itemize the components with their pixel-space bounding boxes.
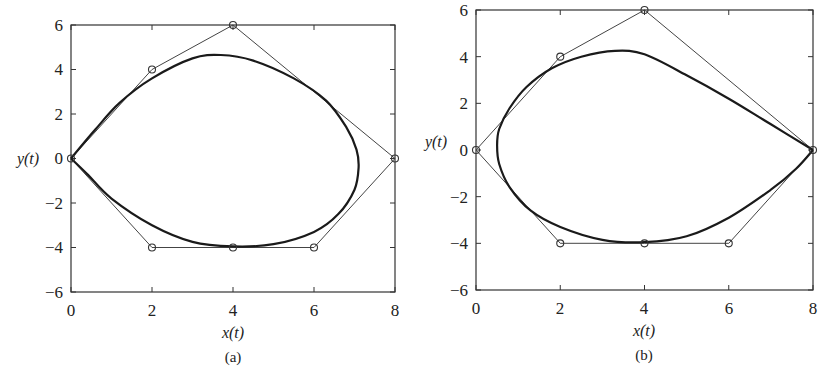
ticks-a — [71, 25, 395, 292]
xtick-label: 2 — [148, 301, 157, 320]
xtick-label: 4 — [640, 299, 649, 318]
xtick-label: 4 — [229, 301, 238, 320]
ytick-label: 4 — [55, 60, 64, 79]
ytick-label: 2 — [460, 94, 469, 113]
x-axis-label-a: x(t) — [221, 324, 244, 342]
ytick-label: −4 — [45, 238, 64, 257]
xtick-label: 0 — [472, 299, 481, 318]
ticks-b — [476, 10, 813, 290]
caption-a: (a) — [225, 349, 242, 366]
control-polygon-a — [71, 25, 395, 248]
ytick-label: −4 — [450, 234, 469, 253]
curve-a — [71, 55, 359, 247]
xtick-label: 6 — [725, 299, 734, 318]
caption-b: (b) — [635, 347, 653, 364]
ytick-label: 6 — [460, 1, 469, 20]
y-axis-label-a: y(t) — [15, 150, 39, 168]
ytick-label: 4 — [460, 48, 469, 67]
xtick-label: 8 — [391, 301, 400, 320]
panel-a: 6 4 2 0 −2 −4 −6 0 2 4 6 8 x(t) y(t) (a) — [15, 16, 399, 366]
ytick-label: −2 — [45, 194, 63, 213]
ytick-label: 6 — [55, 16, 64, 35]
xtick-label: 8 — [809, 299, 818, 318]
curve-b — [497, 51, 813, 243]
xtick-label: 6 — [310, 301, 319, 320]
figure: 6 4 2 0 −2 −4 −6 0 2 4 6 8 x(t) y(t) (a)… — [0, 0, 833, 381]
axes-frame-b — [476, 10, 813, 290]
ytick-label: −2 — [450, 188, 468, 207]
ytick-label: 0 — [460, 141, 469, 160]
control-point-markers-b — [473, 7, 817, 247]
y-axis-label-b: y(t) — [423, 133, 447, 151]
ytick-label: −6 — [450, 281, 468, 300]
xtick-label: 0 — [67, 301, 76, 320]
ytick-label: 0 — [55, 149, 64, 168]
xtick-label: 2 — [556, 299, 565, 318]
ytick-label: −6 — [45, 283, 63, 302]
panel-b: 6 4 2 0 −2 −4 −6 0 2 4 6 8 x(t) y(t) (b) — [423, 1, 817, 364]
axes-frame-a — [71, 25, 395, 292]
x-axis-label-b: x(t) — [632, 322, 655, 340]
ytick-label: 2 — [55, 105, 64, 124]
